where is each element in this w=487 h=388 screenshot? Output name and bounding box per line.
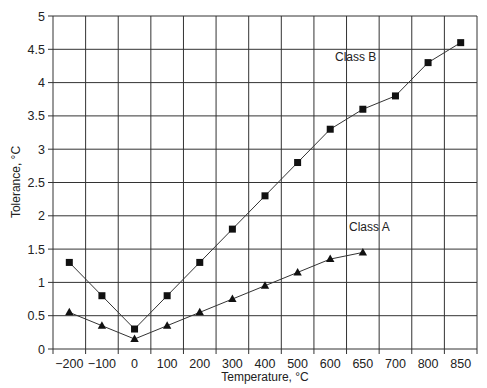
x-tick-label: 100 — [157, 357, 178, 371]
y-tick-label: 3.5 — [28, 109, 45, 123]
square-marker-icon — [359, 106, 366, 113]
y-axis-ticks: 00.511.522.533.544.55 — [28, 10, 45, 357]
square-marker-icon — [392, 92, 399, 99]
x-tick-label: 800 — [418, 357, 439, 371]
y-tick-label: 3 — [38, 143, 45, 157]
square-marker-icon — [457, 39, 464, 46]
x-axis-title: Temperature, °C — [221, 370, 309, 384]
y-tick-label: 0 — [38, 343, 45, 357]
x-tick-label: 850 — [450, 357, 471, 371]
y-axis-title: Tolerance, °C — [9, 146, 23, 218]
x-tick-label: 300 — [222, 357, 243, 371]
square-marker-icon — [425, 59, 432, 66]
y-tick-label: 1 — [38, 276, 45, 290]
square-marker-icon — [294, 159, 301, 166]
square-marker-icon — [196, 259, 203, 266]
square-marker-icon — [131, 326, 138, 333]
y-tick-label: 5 — [38, 10, 45, 24]
square-marker-icon — [164, 292, 171, 299]
series-labels: Class BClass A — [335, 50, 390, 234]
x-tick-label: 500 — [287, 357, 308, 371]
y-tick-label: 2.5 — [28, 176, 45, 190]
square-marker-icon — [98, 292, 105, 299]
x-axis-ticks: −200−1000100200300400500600650700800850 — [55, 357, 471, 371]
square-marker-icon — [262, 192, 269, 199]
series-label: Class B — [335, 50, 376, 64]
x-tick-label: 650 — [352, 357, 373, 371]
x-tick-label: −100 — [88, 357, 116, 371]
y-tick-label: 1.5 — [28, 243, 45, 257]
x-tick-label: 700 — [385, 357, 406, 371]
chart-grid — [48, 16, 477, 354]
x-tick-label: −200 — [55, 357, 83, 371]
x-tick-label: 0 — [131, 357, 138, 371]
chart-series — [65, 39, 464, 342]
square-marker-icon — [229, 226, 236, 233]
x-tick-label: 600 — [320, 357, 341, 371]
y-tick-label: 2 — [38, 209, 45, 223]
triangle-marker-icon — [65, 308, 73, 316]
x-tick-label: 200 — [189, 357, 210, 371]
y-tick-label: 4.5 — [28, 43, 45, 57]
y-tick-label: 4 — [38, 76, 45, 90]
y-tick-label: 0.5 — [28, 309, 45, 323]
x-tick-label: 400 — [255, 357, 276, 371]
square-marker-icon — [327, 126, 334, 133]
tolerance-chart: 00.511.522.533.544.55 −200−1000100200300… — [0, 0, 487, 388]
series-label: Class A — [349, 220, 390, 234]
square-marker-icon — [66, 259, 73, 266]
